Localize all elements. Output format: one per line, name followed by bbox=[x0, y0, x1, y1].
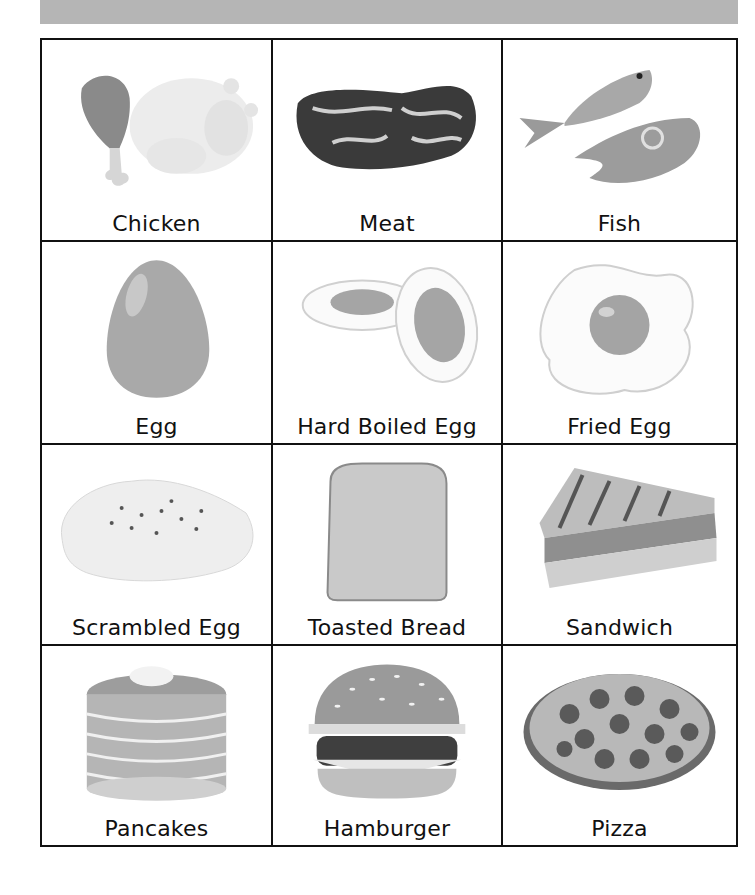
card-egg: Egg bbox=[42, 242, 273, 445]
card-fried-egg: Fried Egg bbox=[503, 242, 736, 445]
card-label: Toasted Bread bbox=[273, 615, 501, 640]
card-fish: Fish bbox=[503, 40, 736, 242]
hamburger-icon bbox=[273, 654, 501, 804]
card-hard-boiled-egg: Hard Boiled Egg bbox=[273, 242, 503, 445]
scrambled-egg-icon bbox=[42, 453, 271, 603]
card-scrambled-egg: Scrambled Egg bbox=[42, 445, 273, 646]
card-label: Hard Boiled Egg bbox=[273, 414, 501, 439]
card-toasted-bread: Toasted Bread bbox=[273, 445, 503, 646]
card-sandwich: Sandwich bbox=[503, 445, 736, 646]
food-card-grid: Chicken Meat Fish bbox=[40, 38, 738, 847]
card-label: Pancakes bbox=[42, 816, 271, 841]
card-label: Fish bbox=[503, 211, 736, 236]
card-label: Sandwich bbox=[503, 615, 736, 640]
fried-egg-icon bbox=[503, 250, 736, 400]
card-label: Chicken bbox=[42, 211, 271, 236]
card-chicken: Chicken bbox=[42, 40, 273, 242]
card-hamburger: Hamburger bbox=[273, 646, 503, 845]
card-label: Hamburger bbox=[273, 816, 501, 841]
card-pancakes: Pancakes bbox=[42, 646, 273, 845]
toast-icon bbox=[273, 453, 501, 603]
egg-icon bbox=[42, 250, 271, 400]
hard-boiled-egg-icon bbox=[273, 250, 501, 400]
card-pizza: Pizza bbox=[503, 646, 736, 845]
sandwich-icon bbox=[503, 453, 736, 603]
chicken-icon bbox=[42, 48, 271, 198]
pancakes-icon bbox=[42, 654, 271, 804]
pizza-icon bbox=[503, 654, 736, 804]
card-label: Pizza bbox=[503, 816, 736, 841]
header-bar bbox=[40, 0, 738, 24]
card-meat: Meat bbox=[273, 40, 503, 242]
fish-icon bbox=[503, 48, 736, 198]
steak-icon bbox=[273, 48, 501, 198]
card-label: Fried Egg bbox=[503, 414, 736, 439]
card-label: Meat bbox=[273, 211, 501, 236]
card-label: Egg bbox=[42, 414, 271, 439]
card-label: Scrambled Egg bbox=[42, 615, 271, 640]
